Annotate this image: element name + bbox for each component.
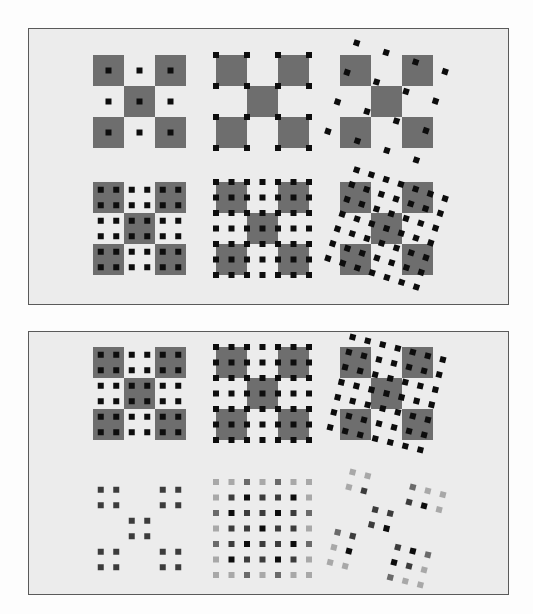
sample-point xyxy=(98,502,104,508)
sample-point xyxy=(306,360,312,366)
sample-point xyxy=(175,264,181,270)
sample-point xyxy=(106,130,112,136)
sample-point xyxy=(160,549,166,555)
sample-point xyxy=(244,526,250,532)
sample-point xyxy=(260,179,266,185)
sample-point xyxy=(390,559,397,566)
sample-point xyxy=(213,406,219,412)
sample-point xyxy=(244,510,250,516)
sample-point xyxy=(229,437,235,443)
sample-point xyxy=(275,344,281,350)
sample-point xyxy=(441,68,449,76)
sample-point xyxy=(363,108,371,116)
sample-point xyxy=(213,145,219,151)
sample-point xyxy=(160,487,166,493)
sample-point xyxy=(260,257,266,263)
sample-point xyxy=(260,226,266,232)
checker-cell xyxy=(124,378,155,409)
sample-point xyxy=(160,564,166,570)
sample-point xyxy=(275,479,281,485)
checker-cell xyxy=(402,409,433,440)
sample-point xyxy=(260,344,266,350)
sample-point xyxy=(291,557,297,563)
sample-point xyxy=(324,255,332,263)
sample-point xyxy=(213,437,219,443)
sample-point xyxy=(306,241,312,247)
sample-point xyxy=(113,233,119,239)
sample-point xyxy=(244,226,250,232)
sample-point xyxy=(291,406,297,412)
sample-point xyxy=(113,367,119,373)
sample-point xyxy=(160,264,166,270)
sample-point xyxy=(368,171,376,179)
sample-point xyxy=(275,422,281,428)
sample-point xyxy=(213,422,219,428)
sample-point xyxy=(244,210,250,216)
sample-point xyxy=(213,241,219,247)
pattern-checker-2x-corner xyxy=(213,344,312,443)
sample-point xyxy=(244,375,250,381)
sample-point xyxy=(439,491,446,498)
pattern-checker-1x-centered xyxy=(93,55,186,148)
sample-point xyxy=(244,422,250,428)
sample-point xyxy=(435,371,442,378)
sample-point xyxy=(412,234,420,242)
sample-point xyxy=(424,487,431,494)
sample-point xyxy=(388,259,396,267)
sample-point xyxy=(260,375,266,381)
sample-point xyxy=(306,179,312,185)
sample-point xyxy=(229,360,235,366)
sample-point xyxy=(160,187,166,193)
sample-point xyxy=(213,526,219,532)
checker-cell xyxy=(340,409,371,440)
sample-point xyxy=(353,166,361,174)
sample-point xyxy=(244,195,250,201)
sample-point xyxy=(349,532,356,539)
sample-point xyxy=(129,429,135,435)
sample-point xyxy=(420,566,427,573)
sample-point xyxy=(275,210,281,216)
sample-point xyxy=(372,506,379,513)
sample-point xyxy=(229,572,235,578)
checker-cell xyxy=(155,244,186,275)
sample-point xyxy=(144,249,150,255)
sample-point xyxy=(144,187,150,193)
sample-point xyxy=(106,68,112,74)
sample-point xyxy=(413,283,421,291)
sample-point xyxy=(213,344,219,350)
sample-point xyxy=(379,341,386,348)
sample-point xyxy=(244,145,250,151)
sample-point xyxy=(229,557,235,563)
sample-point xyxy=(349,333,356,340)
sample-point xyxy=(160,249,166,255)
sample-point xyxy=(275,526,281,532)
sample-point xyxy=(113,414,119,420)
sample-point xyxy=(441,195,449,203)
sample-point xyxy=(129,218,135,224)
sample-point xyxy=(260,557,266,563)
sample-point xyxy=(160,233,166,239)
sample-point xyxy=(291,272,297,278)
sample-point xyxy=(144,202,150,208)
sample-point xyxy=(360,487,367,494)
sample-point xyxy=(306,257,312,263)
checker-cell xyxy=(93,409,124,440)
sample-point xyxy=(175,367,181,373)
sample-point xyxy=(98,202,104,208)
sample-point xyxy=(144,383,150,389)
sample-point xyxy=(424,551,431,558)
sample-point xyxy=(329,240,337,248)
sample-point xyxy=(275,52,281,58)
sample-point xyxy=(175,502,181,508)
sample-point xyxy=(373,205,381,213)
pattern-checker-1x-rotated xyxy=(324,39,449,164)
sample-point xyxy=(338,379,345,386)
sample-point xyxy=(398,279,406,287)
sample-point xyxy=(291,510,297,516)
sample-point xyxy=(291,226,297,232)
sample-point xyxy=(409,483,416,490)
sample-point xyxy=(213,479,219,485)
sample-point xyxy=(378,190,386,198)
sample-point xyxy=(129,367,135,373)
sample-point xyxy=(213,541,219,547)
